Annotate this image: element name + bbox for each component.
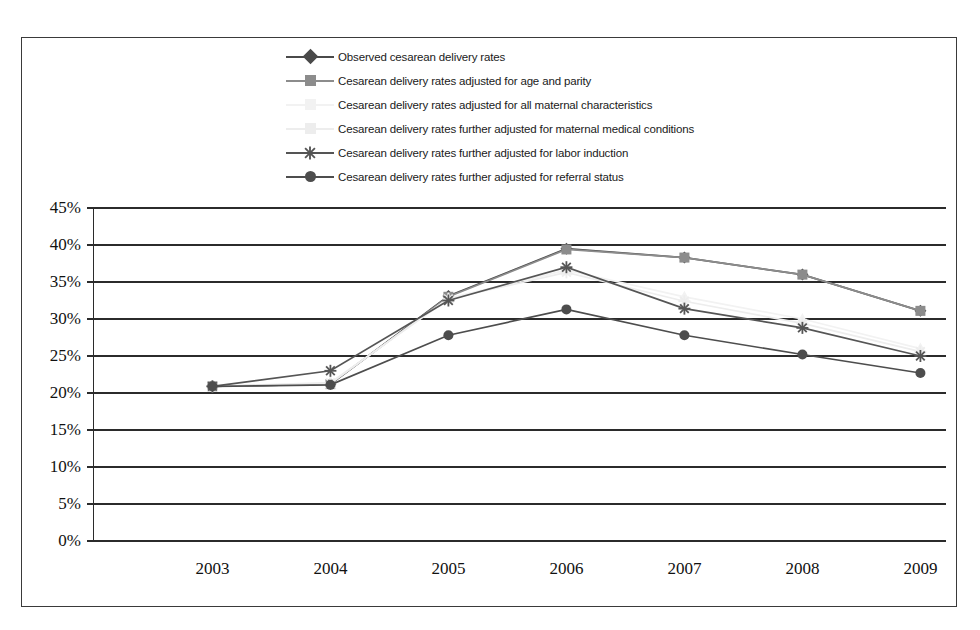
legend-item-all-maternal-characteristics: Cesarean delivery rates adjusted for all… — [286, 93, 946, 117]
legend-marker-cross-icon — [286, 119, 334, 139]
data-point-circle — [797, 350, 807, 360]
x-axis-tick-label: 2005 — [431, 559, 465, 579]
y-axis-tick-label: 40% — [50, 235, 81, 255]
data-point-star — [324, 365, 336, 377]
legend-label: Cesarean delivery rates further adjusted… — [338, 123, 694, 135]
data-point-circle — [443, 330, 453, 340]
x-axis-tick-label: 2006 — [549, 559, 583, 579]
series-line — [212, 272, 920, 386]
legend-label: Cesarean delivery rates adjusted for age… — [338, 75, 591, 87]
data-point-star — [796, 322, 808, 334]
x-axis-tick-label: 2009 — [903, 559, 937, 579]
data-point-square — [915, 306, 925, 316]
data-point-circle — [325, 380, 335, 390]
data-point-star — [914, 350, 926, 362]
legend-marker-diamond-icon — [286, 47, 334, 67]
data-point-circle — [679, 330, 689, 340]
legend-item-observed: Observed cesarean delivery rates — [286, 45, 946, 69]
y-axis-tick-label: 35% — [50, 272, 81, 292]
x-axis-tick-label: 2008 — [785, 559, 819, 579]
series-line — [212, 309, 920, 386]
legend-marker-star-icon — [286, 143, 334, 163]
data-point-square — [679, 253, 689, 263]
y-axis-tick-label: 0% — [58, 531, 81, 551]
legend-label: Cesarean delivery rates adjusted for all… — [338, 99, 652, 111]
data-point-square — [797, 270, 807, 280]
y-axis-tick-label: 45% — [50, 198, 81, 218]
legend-marker-circle-icon — [286, 167, 334, 187]
chart-frame: Observed cesarean delivery rates Cesarea… — [21, 37, 957, 607]
x-axis-tick-label: 2004 — [313, 559, 347, 579]
plot-area: 0%5%10%15%20%25%30%35%40%45% 20032004200… — [93, 208, 946, 541]
data-point-circle — [207, 381, 217, 391]
chart-legend: Observed cesarean delivery rates Cesarea… — [286, 45, 946, 189]
legend-marker-square-icon — [286, 71, 334, 91]
y-axis-tick-label: 15% — [50, 420, 81, 440]
legend-label: Observed cesarean delivery rates — [338, 51, 505, 63]
legend-item-age-parity: Cesarean delivery rates adjusted for age… — [286, 69, 946, 93]
data-point-circle — [561, 304, 571, 314]
legend-item-referral-status: Cesarean delivery rates further adjusted… — [286, 165, 946, 189]
legend-marker-triangle-icon — [286, 95, 334, 115]
y-axis-tick-label: 20% — [50, 383, 81, 403]
y-axis-tick-label: 5% — [58, 494, 81, 514]
legend-item-labor-induction: Cesarean delivery rates further adjusted… — [286, 141, 946, 165]
legend-label: Cesarean delivery rates further adjusted… — [338, 147, 628, 159]
data-point-circle — [915, 368, 925, 378]
data-point-star — [560, 261, 572, 273]
data-point-star — [442, 295, 454, 307]
y-axis-tick-label: 30% — [50, 309, 81, 329]
series-layer — [93, 208, 946, 541]
x-axis-tick-label: 2003 — [195, 559, 229, 579]
legend-label: Cesarean delivery rates further adjusted… — [338, 171, 624, 183]
data-point-square — [561, 244, 571, 254]
y-axis-tick-label: 10% — [50, 457, 81, 477]
x-axis-tick-label: 2007 — [667, 559, 701, 579]
series-line — [212, 270, 920, 386]
legend-item-maternal-medical-conditions: Cesarean delivery rates further adjusted… — [286, 117, 946, 141]
y-axis-tick-label: 25% — [50, 346, 81, 366]
data-point-star — [678, 303, 690, 315]
